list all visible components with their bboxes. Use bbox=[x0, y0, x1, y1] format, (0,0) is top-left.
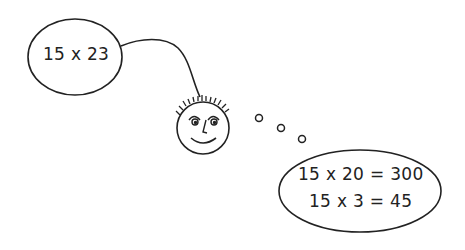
face-icon bbox=[176, 95, 229, 154]
diagram-canvas bbox=[0, 0, 465, 250]
hair bbox=[176, 95, 229, 115]
thought-bubble-line-2: 15 x 3 = 45 bbox=[309, 191, 412, 211]
thought-dot bbox=[256, 115, 263, 122]
thought-bubble-line-1: 15 x 20 = 300 bbox=[298, 164, 424, 184]
nose bbox=[203, 120, 207, 133]
mouth bbox=[191, 138, 216, 143]
speech-bubble-tail bbox=[121, 40, 200, 98]
thought-dot bbox=[278, 125, 285, 132]
eyes bbox=[189, 117, 219, 126]
speech-bubble-text: 15 x 23 bbox=[43, 44, 109, 64]
thought-dot bbox=[299, 136, 306, 143]
